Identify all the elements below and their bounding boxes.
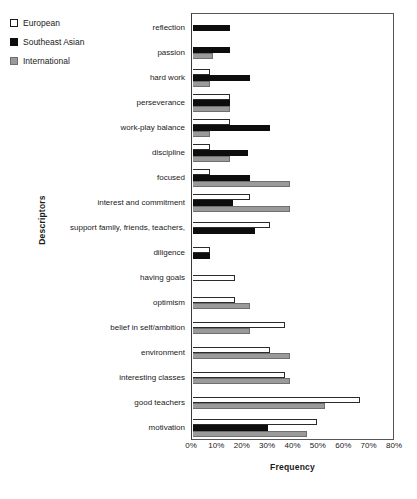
bar-group-bars — [193, 40, 392, 65]
category-label: perseverance — [137, 97, 185, 106]
frequency-descriptors-bar-chart: EuropeanSoutheast AsianInternational Des… — [0, 0, 417, 499]
legend-swatch-european — [10, 19, 18, 27]
bar-group — [193, 340, 392, 365]
x-axis-tick: 70% — [361, 441, 377, 451]
category-label: interesting classes — [119, 372, 185, 381]
legend-swatch-southeast-asian — [10, 38, 18, 46]
bar-group — [193, 390, 392, 415]
category-label: support family, friends, teachers, — [70, 222, 185, 231]
x-axis-tick: 20% — [234, 441, 250, 451]
bar-group-bars — [193, 165, 392, 190]
bar-international — [193, 403, 325, 409]
x-axis-tick: 80% — [386, 441, 402, 451]
category-label: work-play balance — [121, 122, 185, 131]
bar-group — [193, 315, 392, 340]
x-axis-title: Frequency — [191, 462, 394, 472]
category-label: reflection — [153, 22, 185, 31]
y-axis-title: Descriptors — [34, 0, 50, 440]
x-axis-tick-labels: 0%10%20%30%40%50%60%70%80% — [191, 441, 394, 455]
bar-international — [193, 156, 230, 162]
bar-group-bars — [193, 365, 392, 390]
category-label: motivation — [149, 422, 185, 431]
plot-wrapper — [191, 13, 394, 440]
bar-group — [193, 115, 392, 140]
y-axis-category-labels: reflectionpassionhard workperseverancewo… — [50, 13, 188, 440]
bar-group-bars — [193, 115, 392, 140]
bar-group-bars — [193, 140, 392, 165]
x-axis-tick: 40% — [284, 441, 300, 451]
bar-group — [193, 40, 392, 65]
bar-european — [193, 275, 235, 281]
bar-group-bars — [193, 290, 392, 315]
bar-international — [193, 431, 307, 437]
bar-group — [193, 290, 392, 315]
bar-international — [193, 181, 290, 187]
bar-group — [193, 165, 392, 190]
category-label: good teachers — [134, 397, 185, 406]
x-axis-tick: 30% — [259, 441, 275, 451]
bar-group — [193, 190, 392, 215]
bar-international — [193, 303, 250, 309]
bar-group — [193, 265, 392, 290]
bar-group-bars — [193, 265, 392, 290]
bar-group-bars — [193, 65, 392, 90]
category-label: hard work — [150, 72, 185, 81]
x-axis-tick: 50% — [310, 441, 326, 451]
category-label: focused — [157, 172, 185, 181]
bar-international — [193, 106, 230, 112]
bar-group — [193, 15, 392, 40]
x-axis-tick: 0% — [185, 441, 197, 451]
bar-group — [193, 240, 392, 265]
y-axis-title-text: Descriptors — [37, 195, 47, 244]
category-label: passion — [157, 47, 185, 56]
category-label: diligence — [153, 247, 185, 256]
legend-swatch-international — [10, 57, 18, 65]
bar-international — [193, 378, 290, 384]
bar-international — [193, 81, 210, 87]
category-label: environment — [141, 347, 185, 356]
bar-international — [193, 328, 250, 334]
bar-group-bars — [193, 190, 392, 215]
bar-group — [193, 365, 392, 390]
bar-group-bars — [193, 340, 392, 365]
bar-international — [193, 206, 290, 212]
bar-group-bars — [193, 315, 392, 340]
bar-group — [193, 90, 392, 115]
bar-southeastasian — [193, 25, 230, 31]
bar-group-bars — [193, 15, 392, 40]
bar-international — [193, 353, 290, 359]
category-label: having goals — [140, 272, 185, 281]
bar-group-bars — [193, 90, 392, 115]
bar-group — [193, 65, 392, 90]
x-axis-tick: 10% — [208, 441, 224, 451]
category-label: discipline — [152, 147, 185, 156]
bar-group — [193, 215, 392, 240]
bar-international — [193, 131, 210, 137]
bar-southeastasian — [193, 228, 255, 234]
bar-group-bars — [193, 390, 392, 415]
bar-group — [193, 415, 392, 440]
bar-group-bars — [193, 240, 392, 265]
x-axis-tick: 60% — [335, 441, 351, 451]
bar-group-bars — [193, 415, 392, 440]
category-label: belief in self/ambition — [110, 322, 185, 331]
bar-international — [193, 53, 213, 59]
bar-southeastasian — [193, 253, 210, 259]
plot-area — [191, 13, 394, 440]
bar-group — [193, 140, 392, 165]
category-label: optimism — [153, 297, 185, 306]
bar-rows — [193, 15, 392, 438]
bar-group-bars — [193, 215, 392, 240]
category-label: interest and commitment — [97, 197, 185, 206]
